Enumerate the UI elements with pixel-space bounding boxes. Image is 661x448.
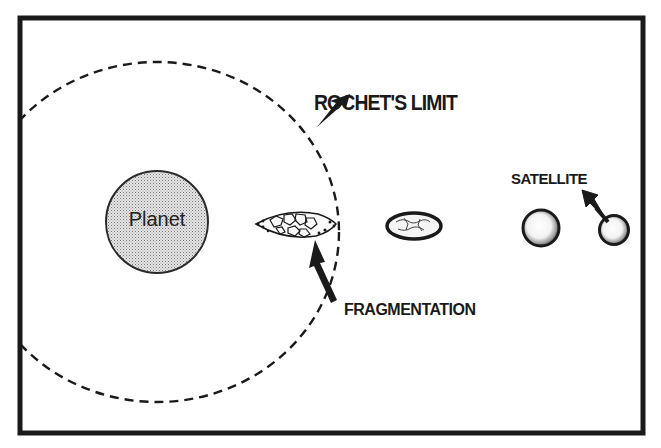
- fragmentation-label: FRAGMENTATION: [344, 301, 476, 319]
- planet-label: Planet: [105, 208, 209, 231]
- fragmentation-arrow-icon: [309, 240, 337, 303]
- satellite-sphere-icon: [523, 210, 559, 246]
- rochet-limit-label: ROCHET'S LIMIT: [314, 90, 457, 116]
- diagram-canvas: [0, 0, 661, 448]
- satellite-label: SATELLITE: [511, 170, 587, 187]
- elongated-satellite-icon: [387, 213, 441, 239]
- fragmenting-body-icon: [256, 212, 336, 237]
